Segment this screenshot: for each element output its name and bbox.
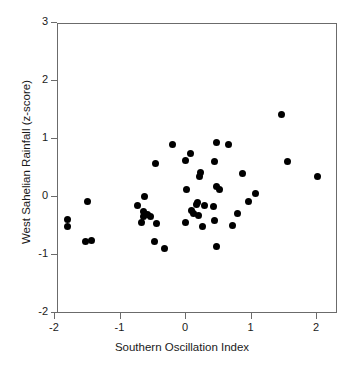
data-point (216, 186, 223, 193)
data-point (183, 186, 190, 193)
data-point (201, 202, 208, 209)
data-point (182, 219, 189, 226)
data-point (314, 173, 321, 180)
data-point (245, 198, 252, 205)
y-tick-label-text: -2 (22, 305, 48, 317)
data-point (88, 237, 95, 244)
data-point (213, 243, 220, 250)
data-point (195, 212, 202, 219)
x-tick-label: -2 (39, 321, 69, 335)
x-tick-label-text: -2 (39, 321, 69, 333)
x-tick-label-text: 0 (170, 321, 200, 333)
data-point (284, 158, 291, 165)
x-tick-label-text: 2 (301, 321, 331, 333)
y-tick-label: -2 (22, 305, 48, 318)
data-point (152, 160, 159, 167)
data-point (140, 213, 147, 220)
x-tick-mark (316, 313, 317, 319)
plot-data-area (57, 23, 336, 312)
data-point (182, 157, 189, 164)
data-point (64, 223, 71, 230)
data-point (169, 141, 176, 148)
x-tick-mark (185, 313, 186, 319)
y-tick-label-text: 3 (22, 15, 48, 27)
x-tick-mark (54, 313, 55, 319)
data-point (197, 169, 204, 176)
x-tick-label: 2 (301, 321, 331, 335)
data-point (211, 158, 218, 165)
scatter-plot-figure: -2-10123 -2-1012 Southern Oscillation In… (0, 0, 364, 371)
data-point (234, 210, 241, 217)
plot-frame-right (336, 23, 337, 313)
data-point (134, 202, 141, 209)
data-point (84, 198, 91, 205)
y-tick-label: 3 (22, 15, 48, 28)
data-point (187, 150, 194, 157)
x-axis-title: Southern Oscillation Index (0, 341, 364, 353)
y-axis-title: West Sahelian Rainfall (z-score) (20, 52, 32, 272)
x-axis-line (57, 312, 337, 313)
data-point (153, 220, 160, 227)
data-point (161, 245, 168, 252)
data-point (278, 111, 285, 118)
x-tick-mark (251, 313, 252, 319)
data-point (211, 217, 218, 224)
x-tick-label: -1 (105, 321, 135, 335)
x-tick-label-text: -1 (105, 321, 135, 333)
data-point (151, 238, 158, 245)
x-tick-label: 0 (170, 321, 200, 335)
data-point (194, 199, 201, 206)
data-point (252, 190, 259, 197)
x-tick-mark (120, 313, 121, 319)
data-point (213, 139, 220, 146)
data-point (141, 193, 148, 200)
data-point (239, 170, 246, 177)
data-point (225, 141, 232, 148)
data-point (210, 203, 217, 210)
data-point (147, 213, 154, 220)
data-point (229, 222, 236, 229)
x-tick-label-text: 1 (236, 321, 266, 333)
data-point (199, 223, 206, 230)
x-tick-label: 1 (236, 321, 266, 335)
